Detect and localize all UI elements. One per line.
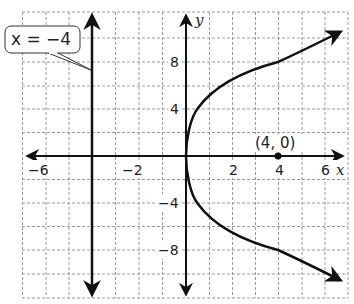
svg-text:−2: −2	[122, 162, 143, 178]
graph: (4, 0) −6 −2 2 4 6 x 8 4 −4 −8 y x = −4	[0, 0, 354, 304]
focus-point-label: (4, 0)	[255, 134, 295, 152]
svg-text:−6: −6	[28, 162, 49, 178]
directrix-callout: x = −4	[5, 26, 91, 70]
svg-text:4: 4	[170, 101, 179, 117]
svg-text:4: 4	[275, 162, 284, 178]
svg-text:−4: −4	[158, 195, 179, 211]
y-tick-labels: 8 4 −4 −8 y	[156, 11, 204, 259]
callout-text: x = −4	[11, 29, 71, 49]
y-axis-label: y	[194, 11, 204, 29]
svg-text:−8: −8	[158, 242, 179, 258]
svg-text:8: 8	[170, 54, 179, 70]
svg-text:6: 6	[321, 162, 330, 178]
svg-text:2: 2	[229, 162, 238, 178]
focus-point	[275, 153, 282, 160]
x-axis-label: x	[336, 161, 345, 179]
